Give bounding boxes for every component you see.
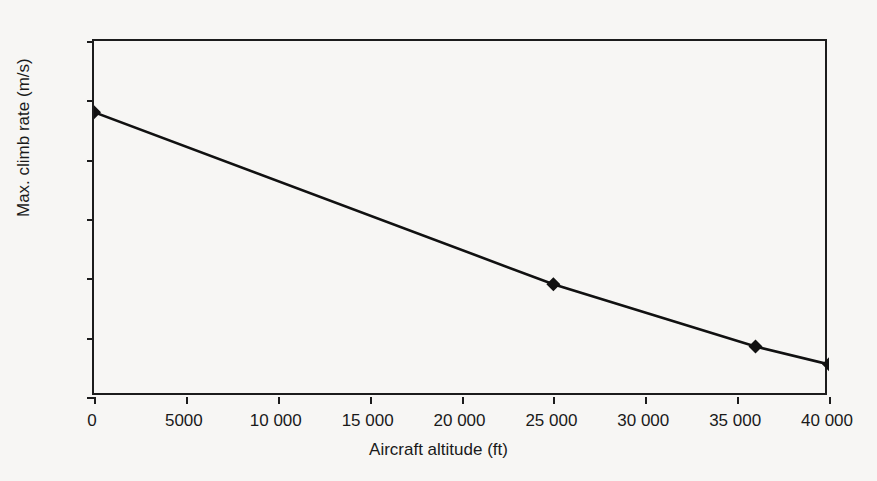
plot-area — [92, 39, 827, 395]
y-tickmark — [87, 41, 94, 43]
data-series-layer — [94, 41, 829, 397]
x-tick-label: 25 000 — [525, 412, 577, 429]
x-tick-label: 20 000 — [434, 412, 486, 429]
x-tickmark — [645, 397, 647, 404]
y-tickmark — [87, 338, 94, 340]
x-tickmark — [553, 397, 555, 404]
x-tick-label: 30 000 — [617, 412, 669, 429]
y-tickmark — [87, 397, 94, 399]
x-tick-label: 35 000 — [709, 412, 761, 429]
data-point-marker — [749, 340, 763, 354]
x-tick-label: 5000 — [165, 412, 203, 429]
y-tickmark — [87, 219, 94, 221]
y-tickmark — [87, 100, 94, 102]
series-line — [94, 112, 829, 364]
chart-figure: 0102030405060 0500010 00015 00020 00025 … — [0, 0, 877, 481]
x-tickmark — [278, 397, 280, 404]
x-tick-label: 40 000 — [801, 412, 853, 429]
data-point-marker — [546, 277, 560, 291]
line-series-svg — [94, 41, 829, 397]
x-tick-label: 10 000 — [250, 412, 302, 429]
data-point-marker — [822, 357, 829, 371]
y-axis-title: Max. climb rate (m/s) — [14, 58, 34, 217]
x-tick-label: 0 — [87, 412, 96, 429]
x-tickmark — [737, 397, 739, 404]
data-point-marker — [94, 105, 101, 119]
x-tickmark — [462, 397, 464, 404]
x-tickmark — [94, 397, 96, 404]
y-tickmark — [87, 160, 94, 162]
x-tickmark — [186, 397, 188, 404]
x-tick-label: 15 000 — [342, 412, 394, 429]
y-tickmark — [87, 278, 94, 280]
x-tickmark — [370, 397, 372, 404]
x-tickmark — [829, 397, 831, 404]
x-axis-title: Aircraft altitude (ft) — [0, 440, 877, 460]
